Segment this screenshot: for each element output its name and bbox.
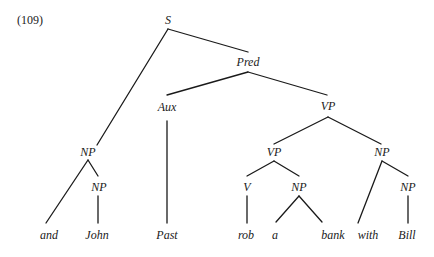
leaf-bill: Bill xyxy=(398,229,415,241)
node-s: S xyxy=(165,14,171,26)
leaf-a: a xyxy=(272,229,278,241)
edge-np-a xyxy=(276,196,299,222)
leaf-bank: bank xyxy=(321,229,344,241)
leaf-rob: rob xyxy=(238,229,254,241)
edge-pred-vp xyxy=(248,72,327,95)
edge-vp-vp xyxy=(274,117,328,144)
edge-np-with xyxy=(358,161,382,223)
node-pred: Pred xyxy=(237,56,260,68)
node-aux: Aux xyxy=(158,101,177,113)
node-vp-top: VP xyxy=(321,100,336,112)
node-vp-inner: VP xyxy=(267,146,282,158)
edge-s-np xyxy=(97,29,168,145)
edge-np-bank xyxy=(299,196,322,222)
syntax-tree-diagram: (109) S Pred Aux VP NP NP VP NP V NP NP … xyxy=(0,0,434,257)
node-np-object: NP xyxy=(291,181,306,193)
edge-np-and xyxy=(46,160,88,223)
edge-vp-np-obj xyxy=(274,161,299,176)
leaf-john: John xyxy=(85,229,108,241)
edge-np-np xyxy=(88,160,98,176)
leaf-with: with xyxy=(358,229,379,241)
edge-vp-np xyxy=(328,117,381,144)
node-v: V xyxy=(243,181,250,193)
node-np-pp: NP xyxy=(374,146,389,158)
node-np-bill: NP xyxy=(400,181,415,193)
tree-edges xyxy=(0,0,434,257)
leaf-past: Past xyxy=(156,229,177,241)
edge-vp-v xyxy=(247,161,274,176)
node-np-john: NP xyxy=(91,181,106,193)
example-number: (109) xyxy=(17,14,43,26)
edge-np-np-bill xyxy=(382,161,408,176)
edge-s-pred xyxy=(168,29,248,52)
edge-pred-aux xyxy=(167,72,248,95)
node-np-subject: NP xyxy=(80,146,95,158)
leaf-and: and xyxy=(40,229,58,241)
